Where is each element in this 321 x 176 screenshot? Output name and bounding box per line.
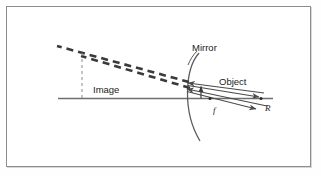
focal-point-marker	[209, 97, 212, 100]
mirror-arc	[187, 53, 200, 141]
center-of-curvature-marker	[260, 97, 263, 100]
virtual-ray-extension-upper	[57, 46, 189, 82]
figure-frame: Mirror Object Image f R	[6, 6, 311, 167]
object-label: Object	[219, 77, 246, 87]
focal-point-label: f	[213, 106, 216, 115]
ray-diagram-svg	[7, 7, 310, 166]
center-of-curvature-label: R	[265, 104, 271, 113]
reflected-ray-lower	[187, 92, 256, 110]
image-label: Image	[93, 85, 119, 95]
figure-root: Mirror Object Image f R	[0, 0, 321, 176]
mirror-label: Mirror	[192, 43, 217, 53]
